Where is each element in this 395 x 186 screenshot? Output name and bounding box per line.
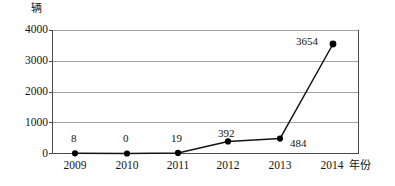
data-point-2009 (72, 150, 78, 156)
data-markers (72, 41, 337, 157)
gridlines (52, 30, 358, 123)
line-chart: 辆 年份 4000 3000 2000 1000 0 2009 2010 201… (0, 0, 395, 186)
data-point-2010 (124, 150, 130, 156)
data-line (75, 44, 333, 154)
data-point-2014 (330, 41, 337, 48)
data-point-2013 (277, 136, 283, 142)
plot-area (0, 0, 395, 186)
data-point-2011 (175, 150, 181, 156)
data-point-2012 (225, 138, 231, 144)
